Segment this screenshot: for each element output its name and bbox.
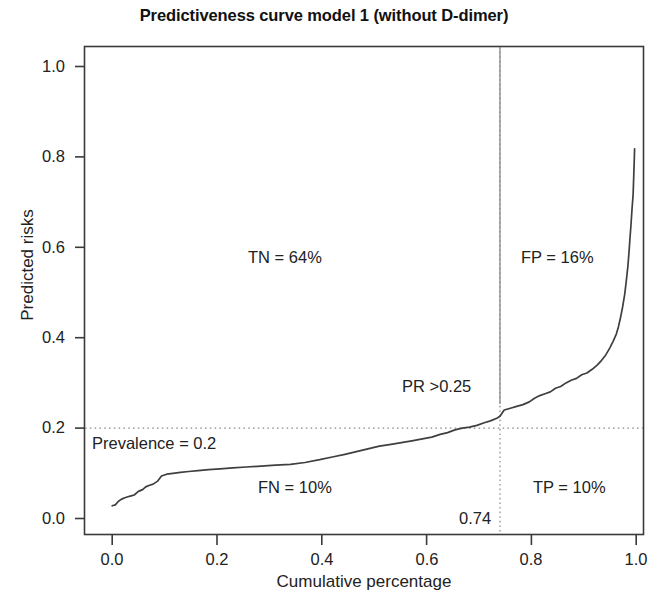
threshold-value-annotation: 0.74: [459, 509, 491, 528]
y-tick-0-4: 0.4: [5, 328, 65, 347]
y-tick-0-2: 0.2: [5, 418, 65, 437]
plot-canvas: [0, 0, 648, 601]
x-tick-0-6: 0.6: [397, 550, 457, 569]
y-tick-0-0: 0.0: [5, 509, 65, 528]
tn-annotation: TN = 64%: [248, 248, 322, 267]
fp-annotation: FP = 16%: [521, 248, 594, 267]
y-tick-1-0: 1.0: [5, 57, 65, 76]
prevalence-annotation: Prevalence = 0.2: [92, 434, 216, 453]
predictiveness-curve-figure: Predictiveness curve model 1 (without D-…: [0, 0, 648, 601]
y-axis-label: Predicted risks: [18, 185, 38, 345]
y-axis-ticks: [75, 67, 84, 519]
x-tick-0-8: 0.8: [501, 550, 561, 569]
x-tick-0-0: 0.0: [82, 550, 142, 569]
y-tick-0-8: 0.8: [5, 147, 65, 166]
x-tick-0-2: 0.2: [187, 550, 247, 569]
fn-annotation: FN = 10%: [258, 478, 332, 497]
y-tick-0-6: 0.6: [5, 238, 65, 257]
x-axis-ticks: [112, 535, 636, 545]
x-tick-1-0: 1.0: [606, 550, 648, 569]
tp-annotation: TP = 10%: [533, 478, 606, 497]
plot-frame: [85, 47, 644, 535]
x-tick-0-4: 0.4: [292, 550, 352, 569]
pr-threshold-annotation: PR >0.25: [402, 377, 471, 396]
x-axis-label: Cumulative percentage: [84, 572, 644, 592]
